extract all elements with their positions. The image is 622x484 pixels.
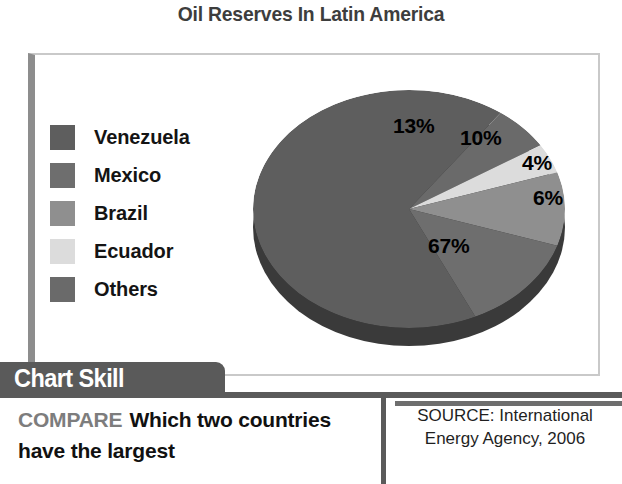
source-note: SOURCE: International Energy Agency, 200… (400, 404, 610, 450)
pie-label-mexico: 13% (393, 114, 434, 138)
legend-swatch-icon (50, 201, 75, 226)
legend-item-others: Others (50, 270, 245, 308)
chart-legend: Venezuela Mexico Brazil Ecuador Others (50, 118, 245, 308)
pie-label-others: 6% (533, 186, 563, 210)
pie-chart: 67% 13% 10% 4% 6% (245, 78, 575, 366)
legend-item-label: Brazil (94, 202, 148, 225)
source-line-1: SOURCE: International (400, 404, 610, 427)
page-title: Oil Reserves In Latin America (25, 2, 597, 26)
legend-swatch-icon (50, 277, 75, 302)
chart-skill-question: COMPAREWhich two countries have the larg… (18, 404, 376, 466)
legend-item-label: Mexico (94, 164, 161, 187)
legend-item-label: Others (94, 278, 158, 301)
legend-swatch-icon (50, 163, 75, 188)
legend-item-label: Ecuador (94, 240, 173, 263)
legend-swatch-icon (50, 239, 75, 264)
chart-skill-tab-label: Chart Skill (14, 364, 124, 393)
pie-label-venezuela: 67% (428, 234, 469, 258)
pie-label-brazil: 10% (460, 126, 501, 150)
pie-label-ecuador: 4% (522, 151, 552, 175)
legend-swatch-icon (50, 125, 75, 150)
legend-item-mexico: Mexico (50, 156, 245, 194)
legend-item-ecuador: Ecuador (50, 232, 245, 270)
legend-item-label: Venezuela (94, 126, 190, 149)
legend-item-venezuela: Venezuela (50, 118, 245, 156)
legend-item-brazil: Brazil (50, 194, 245, 232)
compare-tag: COMPARE (18, 408, 122, 431)
source-line-2: Energy Agency, 2006 (400, 427, 610, 450)
